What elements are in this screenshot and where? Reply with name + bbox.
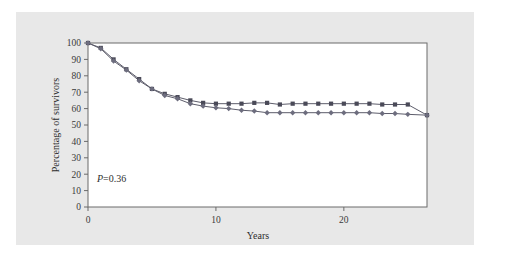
data-point-marker [291,102,295,106]
data-point-marker [278,102,282,106]
data-point-marker [329,102,333,106]
y-tick-label: 40 [72,137,82,147]
data-point-marker [355,102,359,106]
x-axis-title: Years [247,230,269,241]
data-point-marker [252,101,256,105]
y-tick-label: 90 [72,55,82,65]
y-tick-label: 0 [76,202,81,212]
data-point-marker [367,102,371,106]
y-tick-label: 70 [72,88,82,98]
data-point-marker [316,102,320,106]
data-point-marker [393,102,397,106]
y-axis-title: Percentage of survivors [50,78,61,173]
y-tick-label: 10 [72,186,82,196]
data-point-marker [406,102,410,106]
x-axis-tick-labels: 01020 [86,215,349,225]
survival-curve-chart: 0102030405060708090100 01020 Percentage … [0,0,508,271]
chart-plot-area: 0102030405060708090100 01020 Percentage … [0,0,508,271]
y-tick-label: 80 [72,71,82,81]
y-tick-label: 100 [67,38,82,48]
y-axis-ticks [84,43,88,207]
y-tick-label: 20 [72,170,82,180]
data-point-marker [227,102,231,106]
data-point-marker [239,102,243,106]
y-axis-tick-labels: 0102030405060708090100 [67,38,82,212]
y-tick-label: 50 [72,120,82,130]
data-point-marker [303,102,307,106]
data-point-marker [342,102,346,106]
y-tick-label: 60 [72,104,82,114]
x-tick-label: 10 [211,215,221,225]
figure-root: 0102030405060708090100 01020 Percentage … [0,0,508,271]
x-tick-label: 0 [86,215,91,225]
x-axis-ticks [88,207,344,211]
pvalue-symbol: P [96,173,103,184]
x-tick-label: 20 [339,215,349,225]
data-point-marker [380,102,384,106]
plot-frame [88,43,427,207]
pvalue-annotation: P=0.36 [96,173,126,184]
pvalue-value: =0.36 [103,173,126,184]
y-tick-label: 30 [72,153,82,163]
data-point-marker [265,101,269,105]
